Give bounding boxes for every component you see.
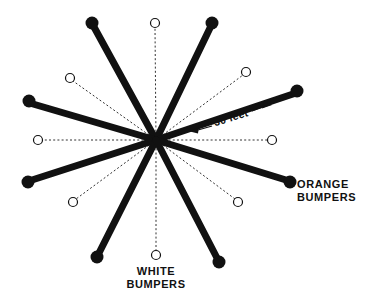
white-bumper-s[interactable] — [152, 251, 161, 260]
orange-bumpers-label-line1: ORANGE — [297, 178, 356, 191]
white-bumper-e[interactable] — [268, 136, 277, 145]
white-bumpers-label-line1: WHITE — [117, 265, 195, 278]
orange-bumper-ene[interactable] — [291, 85, 304, 98]
white-bumper-n[interactable] — [151, 19, 160, 28]
orange-bumper-ese[interactable] — [284, 176, 297, 189]
white-line-n — [155, 28, 156, 140]
white-bumper-ne[interactable] — [242, 68, 251, 77]
orange-bumpers-label: ORANGE BUMPERS — [297, 178, 356, 204]
white-bumper-sw[interactable] — [69, 198, 78, 207]
white-bumpers-label-line2: BUMPERS — [117, 278, 195, 291]
white-bumper-w[interactable] — [34, 136, 43, 145]
orange-bumper-sse[interactable] — [213, 256, 226, 269]
measure-label: 30 feet — [212, 106, 250, 128]
radial-bumper-diagram: 30 feet ORANGE BUMPERS WHITE BUMPERS — [0, 0, 365, 303]
orange-bumper-wsw[interactable] — [22, 176, 35, 189]
orange-bumper-spokes — [32, 27, 293, 258]
orange-bumper-ssw[interactable] — [91, 251, 104, 264]
orange-bumper-wnw[interactable] — [23, 95, 36, 108]
white-bumper-se[interactable] — [234, 198, 243, 207]
radial-spoke-graphic: 30 feet — [0, 0, 365, 303]
orange-bumper-nnw[interactable] — [86, 17, 99, 30]
white-bumper-nw[interactable] — [66, 74, 75, 83]
white-bumpers-label: WHITE BUMPERS — [117, 265, 195, 291]
orange-bumper-nne[interactable] — [206, 17, 219, 30]
orange-bumpers-label-line2: BUMPERS — [297, 191, 356, 204]
